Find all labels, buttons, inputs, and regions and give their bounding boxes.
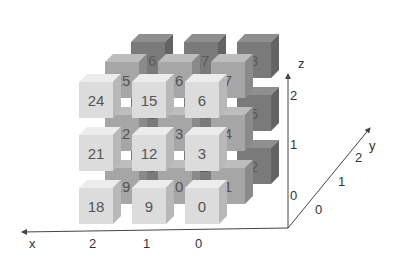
x-tick-2: 2: [89, 236, 96, 251]
z-axis-label: z: [298, 56, 305, 71]
cube-6: 6: [185, 74, 227, 118]
z-tick-1: 1: [290, 137, 297, 152]
cube-0: 0: [185, 180, 227, 224]
cube-18: 18: [79, 180, 121, 224]
cube-label: 15: [132, 82, 166, 118]
x-tick-1: 1: [143, 236, 150, 251]
y-tick-1: 1: [338, 174, 345, 189]
cube-15: 15: [132, 74, 174, 118]
y-axis-label: y: [369, 138, 376, 153]
x-axis-label: x: [29, 236, 36, 251]
cube-grid-diagram: 2617823145201122516722134191012415621123…: [0, 0, 400, 267]
cube-21: 21: [79, 127, 121, 171]
cube-label: 24: [79, 82, 113, 118]
cube-label: 0: [185, 188, 219, 224]
y-tick-0: 0: [315, 202, 322, 217]
cube-label: 21: [79, 135, 113, 171]
cube-label: 6: [185, 82, 219, 118]
x-tick-0: 0: [195, 236, 202, 251]
cube-9: 9: [132, 180, 174, 224]
cube-label: 9: [132, 188, 166, 224]
cube-label: 18: [79, 188, 113, 224]
z-tick-0: 0: [290, 188, 297, 203]
x-axis-line: [22, 228, 288, 232]
cube-3: 3: [185, 127, 227, 171]
cube-12: 12: [132, 127, 174, 171]
z-tick-2: 2: [290, 88, 297, 103]
cube-24: 24: [79, 74, 121, 118]
cube-label: 12: [132, 135, 166, 171]
cube-label: 3: [185, 135, 219, 171]
y-axis-line: [288, 128, 370, 228]
y-tick-2: 2: [355, 150, 362, 165]
